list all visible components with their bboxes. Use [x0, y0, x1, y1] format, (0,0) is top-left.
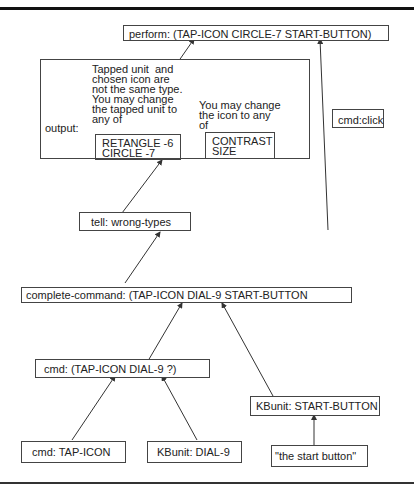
node-start-phrase: "the start button": [271, 445, 368, 467]
node-complete-command: complete-command: (TAP-ICON DIAL-9 START…: [21, 287, 352, 303]
node-cmd-tap: cmd: TAP-ICON: [21, 441, 126, 463]
node-cmd-partial: cmd: (TAP-ICON DIAL-9 ?): [35, 359, 210, 378]
output-list-units: RETANGLE -6 CIRCLE -7: [95, 134, 181, 160]
node-output: Tapped unit and chosen icon are not the …: [40, 59, 310, 159]
node-cmd-click: cmd:click: [332, 109, 384, 128]
output-message-2: You may change the icon to any of: [199, 100, 281, 130]
node-kbunit-dial: KBunit: DIAL-9: [147, 441, 242, 463]
node-perform: perform: (TAP-ICON CIRCLE-7 START-BUTTON…: [123, 25, 389, 41]
output-list-icons: CONTRAST SIZE: [205, 132, 275, 159]
output-label: output:: [45, 123, 79, 133]
node-tell: tell: wrong-types: [79, 212, 191, 231]
output-message-1: Tapped unit and chosen icon are not the …: [92, 64, 183, 124]
node-kbunit-start: KBunit: START-BUTTON: [250, 396, 380, 416]
bottom-rule: [0, 482, 414, 484]
